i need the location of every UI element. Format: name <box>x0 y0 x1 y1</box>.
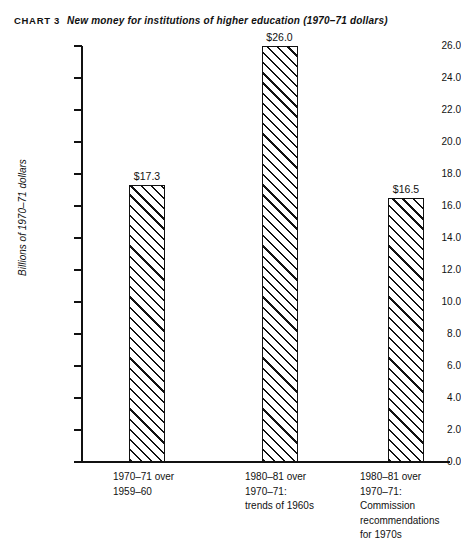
y-axis-tick <box>74 397 82 399</box>
y-axis-tick <box>74 109 82 111</box>
bar-value-label: $26.0 <box>245 32 315 43</box>
y-axis-tick <box>74 205 82 207</box>
y-axis-tick <box>74 333 82 335</box>
y-axis-tick <box>74 429 82 431</box>
y-axis-tick <box>74 141 82 143</box>
y-axis-tick <box>74 269 82 271</box>
x-axis-category-label: 1980–81 over 1970–71: trends of 1960s <box>245 470 314 514</box>
y-axis-tick <box>74 365 82 367</box>
x-axis-category-label: 1970–71 over 1959–60 <box>113 470 174 499</box>
bar-value-label: $16.5 <box>371 184 441 195</box>
y-axis-tick-label: 22.0 <box>395 105 461 115</box>
y-axis-tick <box>74 45 82 47</box>
y-axis-tick <box>74 77 82 79</box>
y-axis-tick <box>74 237 82 239</box>
y-axis-tick-label: 20.0 <box>395 137 461 147</box>
y-axis-tick <box>74 461 82 463</box>
bar <box>129 185 165 462</box>
y-axis-title: Billions of 1970–71 dollars <box>17 148 28 288</box>
y-axis-tick-label: 24.0 <box>395 73 461 83</box>
y-axis-tick <box>74 173 82 175</box>
y-axis-tick-label: 26.0 <box>395 41 461 51</box>
bar <box>388 198 424 462</box>
bar-value-label: $17.3 <box>112 171 182 182</box>
bar <box>262 46 298 462</box>
y-axis-tick-label: 18.0 <box>395 169 461 179</box>
y-axis-tick <box>74 301 82 303</box>
x-axis-category-label: 1980–81 over 1970–71: Commission recomme… <box>360 470 439 542</box>
